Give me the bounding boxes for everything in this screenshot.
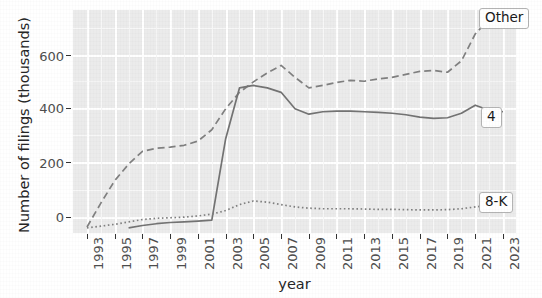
x-tick-mark-2011 [336,234,337,239]
series-tag-other: Other [479,8,529,29]
y-tick-mark-0 [66,217,71,218]
series-tag-4: 4 [481,107,502,128]
data-lines [73,10,516,233]
x-tick-mark-2023 [503,234,504,239]
x-tick-label-2011: 2011 [341,237,354,270]
x-tick-mark-2009 [309,234,310,239]
x-tick-mark-2019 [447,234,448,239]
x-axis-label: year [73,276,516,292]
x-tick-mark-1993 [87,234,88,239]
y-axis-ticks: 600 400 200 0 [0,0,64,298]
x-tick-label-2019: 2019 [452,237,465,270]
y-tick-label-0: 0 [18,211,64,224]
series-line-other [87,19,503,227]
y-tick-label-200: 200 [18,157,64,170]
y-tick-mark-600 [66,55,71,56]
y-tick-label-600: 600 [18,50,64,63]
x-tick-label-2013: 2013 [369,237,382,270]
x-tick-label-2003: 2003 [231,237,244,270]
y-tick-mark-400 [66,108,71,109]
x-tick-mark-1995 [115,234,116,239]
y-tick-label-400: 400 [18,102,64,115]
x-tick-label-1999: 1999 [175,237,188,270]
x-tick-label-2007: 2007 [286,237,299,270]
x-tick-label-2009: 2009 [314,237,327,270]
x-tick-mark-2003 [226,234,227,239]
x-tick-label-1997: 1997 [147,237,160,270]
y-tick-mark-200 [66,162,71,163]
x-tick-label-1993: 1993 [92,237,105,270]
x-tick-mark-2015 [392,234,393,239]
chart-container: Number of filings (thousands) 600 400 20… [0,0,542,298]
x-tick-label-1995: 1995 [120,237,133,270]
x-tick-label-2005: 2005 [258,237,271,270]
x-tick-mark-1997 [142,234,143,239]
series-line-4 [129,85,503,227]
x-tick-mark-1999 [170,234,171,239]
x-tick-label-2023: 2023 [508,237,521,270]
x-tick-mark-2007 [281,234,282,239]
x-tick-mark-2017 [420,234,421,239]
x-tick-mark-2005 [253,234,254,239]
x-tick-mark-2021 [475,234,476,239]
x-tick-mark-2001 [198,234,199,239]
x-tick-mark-2013 [364,234,365,239]
x-tick-label-2015: 2015 [397,237,410,270]
x-tick-label-2017: 2017 [425,237,438,270]
x-tick-label-2001: 2001 [203,237,216,270]
series-tag-8k: 8-K [479,192,513,213]
x-tick-label-2021: 2021 [480,237,493,270]
